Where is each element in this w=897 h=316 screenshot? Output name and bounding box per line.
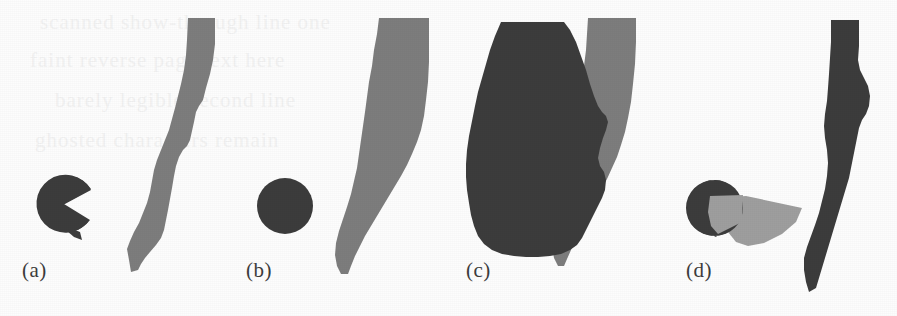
mid-gray-curved-band-a bbox=[127, 18, 215, 272]
panel-a: (a) bbox=[0, 0, 224, 316]
panel-d-label: (d) bbox=[686, 258, 712, 283]
panel-d-artwork bbox=[680, 0, 897, 316]
dark-curved-band-d bbox=[804, 20, 870, 292]
panel-c: (c) bbox=[448, 0, 680, 316]
panel-b-label: (b) bbox=[246, 258, 272, 283]
dark-disk-solid-b bbox=[257, 178, 313, 234]
panel-b: (b) bbox=[224, 0, 448, 316]
figure-container: scanned show-through line one faint reve… bbox=[0, 0, 897, 316]
mid-gray-curved-band-b bbox=[335, 18, 429, 274]
panel-d: (d) bbox=[680, 0, 897, 316]
dark-disk-tail-a bbox=[67, 228, 82, 240]
panel-a-label: (a) bbox=[22, 258, 47, 283]
panel-c-label: (c) bbox=[466, 258, 491, 283]
dark-disk-notch-outline-a bbox=[36, 175, 91, 233]
